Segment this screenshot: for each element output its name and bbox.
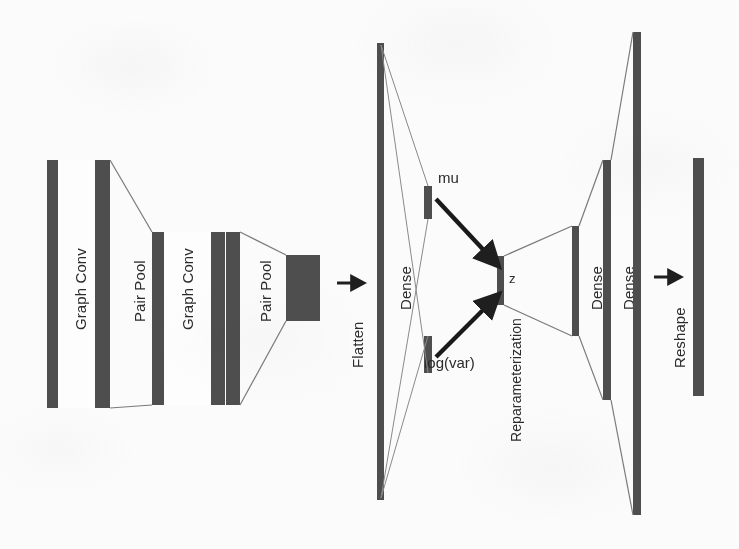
logvar-to-z-arrow-icon [436, 301, 492, 357]
connector-overlay [0, 0, 739, 549]
dense2-to-dense3-connectors [611, 32, 633, 515]
z-to-dense1-connectors [504, 226, 572, 336]
pair-pool-1-connectors [110, 160, 152, 408]
dense1-to-dense2-connectors [579, 160, 603, 400]
dense-to-mu-fan [381, 45, 428, 498]
mu-to-z-arrow-icon [436, 199, 492, 259]
pair-pool-2-connectors [240, 232, 286, 405]
architecture-diagram: Graph Conv Pair Pool Graph Conv Pair Poo… [0, 0, 739, 549]
